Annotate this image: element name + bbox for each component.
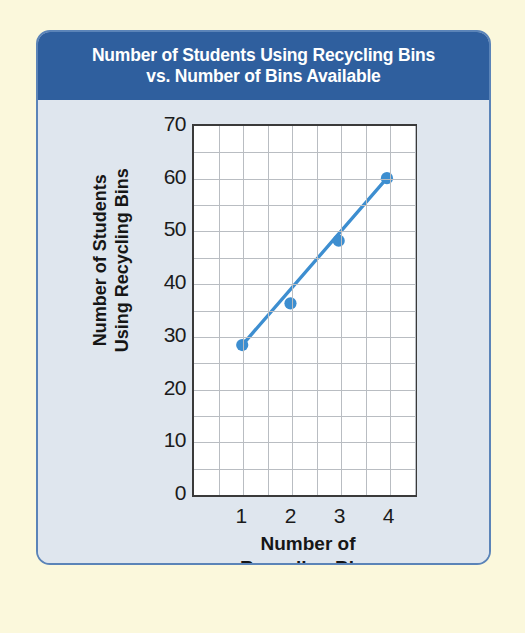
gridline-horizontal xyxy=(194,231,415,232)
x-tick-label: 1 xyxy=(221,504,261,528)
y-tick-label: 40 xyxy=(142,270,186,294)
gridline-horizontal xyxy=(194,337,415,338)
y-axis-title-line-2: Using Recycling Bins xyxy=(111,140,133,380)
y-axis-title-line-1: Number of Students xyxy=(89,140,111,380)
gridline-horizontal xyxy=(194,469,415,470)
x-tick-label: 2 xyxy=(270,504,310,528)
gridline-horizontal xyxy=(194,442,415,443)
gridline-horizontal xyxy=(194,390,415,391)
y-tick-label: 30 xyxy=(142,323,186,347)
chart-title-line-1: Number of Students Using Recycling Bins xyxy=(92,45,435,66)
data-point xyxy=(284,297,296,309)
chart-title-line-2: vs. Number of Bins Available xyxy=(92,66,435,87)
gridline-horizontal xyxy=(194,311,415,312)
gridline-horizontal xyxy=(194,205,415,206)
y-tick-label: 60 xyxy=(142,165,186,189)
chart-card-body: Number of Students Using Recycling Bins … xyxy=(38,100,489,563)
y-tick-label: 20 xyxy=(142,376,186,400)
y-tick-label: 0 xyxy=(142,481,186,505)
chart-area: Number of Students Using Recycling Bins … xyxy=(38,100,489,563)
x-axis-title-line-2: Recycling Bins xyxy=(158,556,458,565)
y-tick-label: 70 xyxy=(142,112,186,136)
plot-frame xyxy=(192,124,417,497)
gridline-horizontal xyxy=(194,152,415,153)
x-tick-label: 4 xyxy=(368,504,408,528)
y-tick-label: 10 xyxy=(142,428,186,452)
chart-title: Number of Students Using Recycling Bins … xyxy=(92,45,435,88)
x-axis-title: Number of Recycling Bins xyxy=(158,532,458,565)
gridline-horizontal xyxy=(194,258,415,259)
data-point xyxy=(333,235,345,247)
chart-card: Number of Students Using Recycling Bins … xyxy=(36,30,491,565)
gridline-horizontal xyxy=(194,416,415,417)
gridline-horizontal xyxy=(194,363,415,364)
gridline-vertical xyxy=(415,126,416,495)
chart-card-header: Number of Students Using Recycling Bins … xyxy=(38,32,489,100)
gridline-horizontal xyxy=(194,179,415,180)
x-axis-title-line-1: Number of xyxy=(158,532,458,556)
gridline-horizontal xyxy=(194,284,415,285)
x-axis-tick-labels: 1234 xyxy=(192,504,417,534)
x-tick-label: 3 xyxy=(319,504,359,528)
y-axis-tick-labels: 010203040506070 xyxy=(138,124,186,497)
y-tick-label: 50 xyxy=(142,217,186,241)
y-axis-title: Number of Students Using Recycling Bins xyxy=(89,140,134,380)
